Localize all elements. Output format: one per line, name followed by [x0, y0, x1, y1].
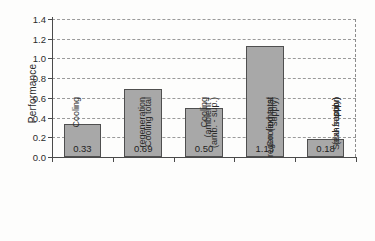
- x-axis-category-label-line: Solar fraction: [331, 97, 342, 163]
- x-axis-tick-mark: [113, 157, 114, 162]
- x-axis-tick-mark: [52, 157, 53, 162]
- gridline: [52, 39, 356, 40]
- y-axis-tick-label: 0.4: [16, 112, 46, 123]
- y-axis-tick-label: 1.0: [16, 53, 46, 64]
- plot-right-border: [355, 19, 356, 157]
- bar-value-label: 0.33: [65, 143, 101, 154]
- y-axis-tick-label: 0.0: [16, 152, 46, 163]
- x-axis-category-label: Solar fraction: [320, 163, 375, 174]
- y-axis-tick-label: 0.2: [16, 132, 46, 143]
- x-axis-category-label-line: Cooling: [71, 97, 82, 163]
- gridline: [52, 78, 356, 79]
- x-axis-tick-mark: [174, 157, 175, 162]
- gridline: [52, 58, 356, 59]
- y-axis-tick-label: 1.4: [16, 14, 46, 25]
- y-axis-tick-label: 1.2: [16, 33, 46, 44]
- y-axis-tick-label: 0.8: [16, 73, 46, 84]
- x-axis-tick-mark: [234, 157, 235, 162]
- x-axis-category-label-line: Cooling: [199, 97, 210, 163]
- bar-chart: Performance 0.00.20.40.60.81.01.21.4 0.3…: [0, 0, 375, 241]
- x-axis-tick-mark: [356, 157, 357, 162]
- bar: 0.33: [64, 124, 102, 157]
- y-axis-tick-label: 0.6: [16, 92, 46, 103]
- x-axis-category-label-line: Cooling total: [143, 97, 154, 163]
- y-axis-line: [52, 17, 53, 159]
- x-axis-tick-mark: [295, 157, 296, 162]
- gridline: [52, 19, 356, 20]
- x-axis-category-label-line: (amb. - sup.): [209, 97, 220, 163]
- x-axis-category-label-line: Cooling total: [265, 97, 276, 163]
